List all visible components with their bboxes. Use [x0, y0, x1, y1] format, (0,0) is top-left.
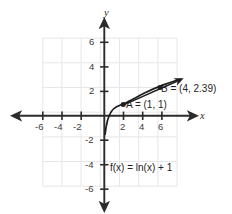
- point-a-label: A = (1, 1): [126, 100, 167, 110]
- ytick-label-neg6: -6: [85, 184, 93, 194]
- ytick-label-2: 2: [89, 86, 94, 96]
- y-axis-label: y: [104, 8, 109, 19]
- ytick-label-4: 4: [89, 62, 94, 72]
- function-label: f(x) = ln(x) + 1: [110, 163, 172, 173]
- xtick-label-neg6: -6: [35, 122, 43, 132]
- graph-figure: -6 -4 -2 2 4 6 6 4 2 -2 -4 -6 x y A = (1…: [0, 0, 232, 214]
- xtick-label-4: 4: [139, 122, 144, 132]
- xtick-label-6: 6: [158, 122, 163, 132]
- ytick-label-neg4: -4: [85, 160, 93, 170]
- point-b-label: B = (4, 2.39): [161, 84, 216, 94]
- xtick-label-2: 2: [120, 122, 125, 132]
- ytick-label-6: 6: [89, 37, 94, 47]
- x-axis-label: x: [200, 111, 205, 122]
- ytick-label-neg2: -2: [85, 135, 93, 145]
- xtick-label-neg4: -4: [54, 122, 62, 132]
- point-a-marker: [121, 102, 126, 107]
- coordinate-plane: [0, 0, 232, 214]
- xtick-label-neg2: -2: [73, 122, 81, 132]
